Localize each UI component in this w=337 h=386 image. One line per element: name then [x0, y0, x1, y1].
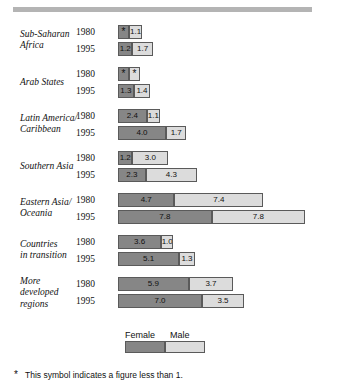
bar-segment-female: *: [118, 25, 129, 39]
bar-segment-female: 1.3: [118, 84, 134, 98]
bar-value-label: 1.2: [120, 153, 131, 162]
bar-value-label: 1.3: [181, 254, 192, 263]
chart-row: 19804.77.4: [0, 192, 337, 208]
bar-value-label: 1.3: [120, 86, 131, 95]
bar-segment-male: 1.1: [129, 25, 142, 39]
chart-groups: Sub-SaharanAfrica1980*1.119951.21.7Arab …: [0, 24, 337, 318]
bar-segment-female: 5.1: [118, 252, 179, 266]
chart-row: 19951.21.7: [0, 41, 337, 57]
chart-row: 19803.61.0: [0, 234, 337, 250]
year-label: 1980: [76, 192, 110, 208]
year-label: 1980: [76, 234, 110, 250]
bar-value-label: *: [122, 69, 126, 79]
bar-segment-female: *: [118, 67, 129, 81]
year-label: 1995: [76, 167, 110, 183]
year-label: 1995: [76, 41, 110, 57]
bar-value-label: 7.0: [154, 296, 165, 305]
year-label: 1995: [76, 209, 110, 225]
chart-container: Sub-SaharanAfrica1980*1.119951.21.7Arab …: [0, 0, 337, 386]
bar-value-label: 4.3: [166, 170, 177, 179]
year-label: 1995: [76, 125, 110, 141]
bar-segment-female: 7.0: [118, 294, 202, 308]
bar-segment-female: 7.8: [118, 210, 212, 224]
chart-row: 19957.03.5: [0, 293, 337, 309]
stacked-bar: *1.1: [118, 25, 142, 39]
bar-segment-male: 1.4: [134, 84, 151, 98]
year-label: 1995: [76, 293, 110, 309]
year-label: 1980: [76, 108, 110, 124]
bar-segment-female: 1.2: [118, 42, 132, 56]
year-label: 1980: [76, 276, 110, 292]
bar-segment-male: 3.5: [202, 294, 244, 308]
year-label: 1995: [76, 251, 110, 267]
stacked-bar: 4.01.7: [118, 126, 186, 140]
chart-row: 19957.87.8: [0, 209, 337, 225]
chart-row: 1980*1.1: [0, 24, 337, 40]
chart-row: 19955.11.3: [0, 251, 337, 267]
bar-value-label: *: [122, 27, 126, 37]
bar-value-label: 3.0: [145, 153, 156, 162]
bar-segment-female: 4.7: [118, 193, 174, 207]
bar-segment-female: 5.9: [118, 277, 189, 291]
stacked-bar: 1.31.4: [118, 84, 150, 98]
bar-value-label: 5.9: [148, 279, 159, 288]
chart-row: 19802.41.1: [0, 108, 337, 124]
stacked-bar: 2.34.3: [118, 168, 197, 182]
bar-segment-male: 1.7: [166, 126, 186, 140]
chart-row: 19954.01.7: [0, 125, 337, 141]
bar-value-label: 5.1: [143, 254, 154, 263]
stacked-bar: 7.87.8: [118, 210, 305, 224]
year-label: 1995: [76, 83, 110, 99]
bar-value-label: 7.8: [159, 212, 170, 221]
bar-segment-female: 2.4: [118, 109, 147, 123]
bar-value-label: 1.1: [130, 27, 141, 36]
bar-value-label: 4.0: [136, 128, 147, 137]
chart-row: 19952.34.3: [0, 167, 337, 183]
chart-group: Eastern Asia/Oceania19804.77.419957.87.8: [0, 192, 337, 225]
bar-value-label: 1.2: [120, 44, 131, 53]
chart-row: 19805.93.7: [0, 276, 337, 292]
bar-value-label: 1.0: [162, 237, 173, 246]
footnote: * This symbol indicates a figure less th…: [14, 370, 314, 380]
legend-label-male: Male: [166, 330, 210, 340]
stacked-bar: 5.93.7: [118, 277, 233, 291]
bar-value-label: 1.4: [136, 86, 147, 95]
bar-segment-male: 1.1: [147, 109, 160, 123]
bar-value-label: 3.5: [217, 296, 228, 305]
bar-value-label: 7.8: [253, 212, 264, 221]
year-label: 1980: [76, 66, 110, 82]
footnote-text: This symbol indicates a figure less than…: [25, 370, 183, 380]
bar-value-label: *: [133, 69, 137, 79]
chart-group: Latin America/Caribbean19802.41.119954.0…: [0, 108, 337, 141]
bar-segment-male: *: [129, 67, 140, 81]
legend-swatches: [125, 341, 245, 353]
chart-row: 19801.23.0: [0, 150, 337, 166]
chart-group: Sub-SaharanAfrica1980*1.119951.21.7: [0, 24, 337, 57]
bar-value-label: 7.4: [213, 195, 224, 204]
stacked-bar: 7.03.5: [118, 294, 244, 308]
chart-row: 19951.31.4: [0, 83, 337, 99]
chart-group: Arab States1980**19951.31.4: [0, 66, 337, 99]
stacked-bar: **: [118, 67, 140, 81]
bar-value-label: 1.1: [148, 111, 159, 120]
bar-segment-male: 1.3: [179, 252, 195, 266]
bar-value-label: 4.7: [141, 195, 152, 204]
legend-label-female: Female: [125, 330, 166, 340]
bar-segment-female: 3.6: [118, 235, 161, 249]
stacked-bar: 2.41.1: [118, 109, 160, 123]
bar-value-label: 1.7: [171, 128, 182, 137]
stacked-bar: 5.11.3: [118, 252, 195, 266]
year-label: 1980: [76, 24, 110, 40]
legend-swatch-male: [165, 341, 205, 353]
bar-value-label: 3.6: [134, 237, 145, 246]
chart-group: Moredevelopedregions19805.93.719957.03.5: [0, 276, 337, 309]
bar-segment-male: 3.7: [189, 277, 233, 291]
stacked-bar: 1.23.0: [118, 151, 168, 165]
footnote-star-icon: *: [14, 370, 25, 380]
bar-value-label: 3.7: [205, 279, 216, 288]
bar-segment-male: 7.4: [174, 193, 263, 207]
chart-legend: Female Male: [125, 330, 245, 353]
chart-row: 1980**: [0, 66, 337, 82]
legend-labels: Female Male: [125, 330, 245, 340]
bar-segment-male: 1.7: [132, 42, 152, 56]
